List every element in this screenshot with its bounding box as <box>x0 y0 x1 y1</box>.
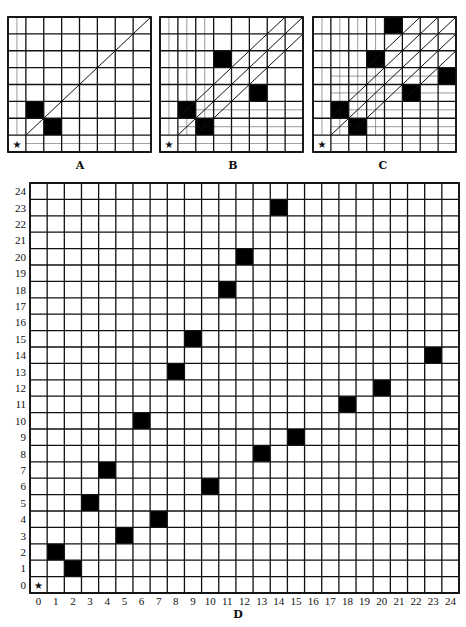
column-label: 9 <box>184 596 202 607</box>
row-label: 2 <box>6 547 26 558</box>
panel-b-caption: B <box>228 159 237 172</box>
row-label: 8 <box>6 448 26 459</box>
start-star-icon: ★ <box>164 139 173 150</box>
column-label: 4 <box>98 596 116 607</box>
p-position-cell <box>26 101 44 118</box>
row-label: 5 <box>6 497 26 508</box>
column-label: 14 <box>270 596 288 607</box>
p-position-cell <box>236 249 253 265</box>
column-label: 16 <box>304 596 322 607</box>
row-label: 22 <box>6 219 26 230</box>
p-position-cell <box>81 495 98 511</box>
column-label: 8 <box>167 596 185 607</box>
grid-svg: ★ <box>8 17 151 152</box>
p-position-cell <box>202 478 219 494</box>
p-position-cell <box>99 462 116 478</box>
row-label: 21 <box>6 235 26 246</box>
column-label: 6 <box>133 596 151 607</box>
p-position-cell <box>270 199 287 215</box>
p-position-cell <box>47 544 64 560</box>
grid-svg: ★ <box>160 17 303 152</box>
panel-c-caption: C <box>379 159 388 172</box>
panel-a-caption: A <box>76 159 85 172</box>
row-label: 14 <box>6 350 26 361</box>
column-label: 5 <box>115 596 133 607</box>
p-position-cell <box>287 429 304 445</box>
start-star-icon: ★ <box>317 139 326 150</box>
p-position-cell <box>133 413 150 429</box>
column-label: 13 <box>253 596 271 607</box>
row-label: 6 <box>6 481 26 492</box>
p-position-cell <box>249 85 267 102</box>
column-label: 3 <box>81 596 99 607</box>
p-position-cell <box>219 281 236 297</box>
row-label: 9 <box>6 432 26 443</box>
column-label: 22 <box>407 596 425 607</box>
row-label: 12 <box>6 383 26 394</box>
row-label: 17 <box>6 301 26 312</box>
column-label: 12 <box>236 596 254 607</box>
row-label: 3 <box>6 530 26 541</box>
p-position-cell <box>425 347 442 363</box>
column-label: 11 <box>218 596 236 607</box>
panel-d-caption: D <box>233 608 243 621</box>
column-label: 23 <box>424 596 442 607</box>
column-label: 20 <box>373 596 391 607</box>
column-label: 18 <box>338 596 356 607</box>
row-label: 18 <box>6 284 26 295</box>
column-label: 1 <box>47 596 65 607</box>
column-label: 15 <box>287 596 305 607</box>
column-label: 0 <box>30 596 48 607</box>
p-position-cell <box>116 527 133 543</box>
column-label: 2 <box>64 596 82 607</box>
row-label: 1 <box>6 563 26 574</box>
row-label: 10 <box>6 415 26 426</box>
start-star-icon: ★ <box>12 139 21 150</box>
row-label: 11 <box>6 399 26 410</box>
column-label: 7 <box>150 596 168 607</box>
grid-svg: ★ <box>30 183 459 593</box>
p-position-cell <box>64 560 81 576</box>
row-label: 4 <box>6 514 26 525</box>
p-position-cell <box>373 380 390 396</box>
p-position-cell <box>214 51 232 68</box>
column-label: 24 <box>441 596 459 607</box>
p-position-cell <box>339 396 356 412</box>
row-label: 24 <box>6 186 26 197</box>
p-position-cell <box>44 118 62 135</box>
p-position-cell <box>385 17 403 34</box>
start-star-icon: ★ <box>34 580 43 591</box>
p-position-cell <box>253 445 270 461</box>
row-label: 20 <box>6 251 26 262</box>
column-label: 10 <box>201 596 219 607</box>
p-position-cell <box>150 511 167 527</box>
row-label: 7 <box>6 465 26 476</box>
grid-svg: ★ <box>313 17 456 152</box>
column-label: 21 <box>390 596 408 607</box>
row-label: 0 <box>6 579 26 590</box>
row-label: 23 <box>6 202 26 213</box>
p-position-cell <box>184 331 201 347</box>
wythoff-figure: ★ ★ ★ A B C ★ 24232221201918171615141312… <box>0 0 466 627</box>
column-label: 17 <box>321 596 339 607</box>
row-label: 19 <box>6 268 26 279</box>
column-label: 19 <box>356 596 374 607</box>
row-label: 13 <box>6 366 26 377</box>
row-label: 15 <box>6 333 26 344</box>
row-label: 16 <box>6 317 26 328</box>
p-position-cell <box>167 363 184 379</box>
